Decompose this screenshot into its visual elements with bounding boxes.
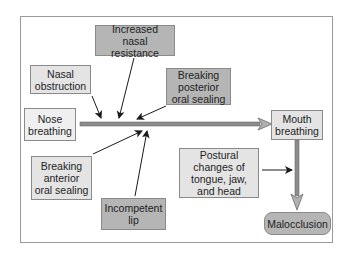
arrow-posterior-sealing — [137, 106, 166, 119]
arrow-anterior-sealing — [93, 131, 142, 154]
node-label: Nasal obstruction — [33, 68, 88, 92]
node-increased-nasal-resistance: Increased nasal resistance — [95, 25, 175, 56]
arrow-nasal-obstruction — [92, 96, 101, 118]
node-nasal-obstruction: Nasal obstruction — [30, 65, 91, 94]
node-label: Malocclusion — [267, 218, 328, 230]
node-label: Postural changes of tongue, jaw, and hea… — [182, 149, 256, 197]
node-breaking-anterior-oral-sealing: Breaking anterior oral sealing — [31, 156, 92, 200]
node-label: Breaking anterior oral sealing — [34, 160, 89, 196]
node-nose-breathing: Nose breathing — [24, 108, 76, 141]
node-malocclusion: Malocclusion — [264, 212, 331, 235]
node-label: Increased nasal resistance — [98, 23, 172, 59]
thick-arrow-nose-to-mouth — [80, 118, 272, 130]
node-postural-changes: Postural changes of tongue, jaw, and hea… — [179, 148, 259, 198]
thick-arrow-mouth-to-malocclusion — [291, 140, 303, 210]
arrow-increased-resistance — [119, 58, 134, 118]
node-label: Incompetent lip — [104, 202, 163, 226]
node-incompetent-lip: Incompetent lip — [101, 198, 166, 230]
node-label: Breaking posterior oral sealing — [169, 69, 228, 105]
node-label: Nose breathing — [27, 113, 73, 137]
node-breaking-posterior-oral-sealing: Breaking posterior oral sealing — [166, 68, 231, 105]
arrow-incompetent-lip — [135, 131, 147, 196]
node-mouth-breathing: Mouth breathing — [271, 110, 323, 140]
node-label: Mouth breathing — [274, 113, 320, 137]
